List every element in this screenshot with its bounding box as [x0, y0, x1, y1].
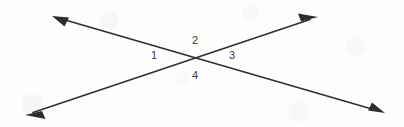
- line-segment: [33, 20, 310, 113]
- arrowhead-upper-left-icon: [52, 16, 69, 27]
- line-upper-left-to-lower-right: [52, 16, 385, 113]
- intersecting-lines-diagram: [0, 0, 404, 127]
- line-segment: [60, 19, 377, 111]
- angle-label-2: 2: [192, 35, 198, 46]
- arrowhead-lower-right-icon: [368, 103, 385, 114]
- geometry-figure: 1 2 3 4: [0, 0, 404, 127]
- angle-label-3: 3: [229, 50, 235, 61]
- line-lower-left-to-upper-right: [25, 14, 318, 120]
- angle-label-4: 4: [192, 70, 198, 81]
- angle-label-1: 1: [151, 50, 157, 61]
